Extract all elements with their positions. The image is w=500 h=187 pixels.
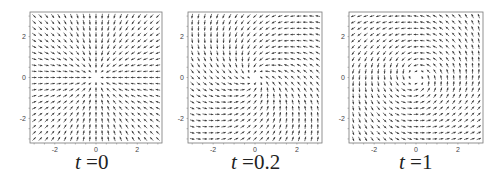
x-tick-label: -2 xyxy=(371,146,377,153)
y-tick-label: 0 xyxy=(341,74,345,81)
vector-field-plot: -202-202 xyxy=(0,0,165,150)
vector-field-plot: -202-202 xyxy=(158,0,323,150)
caption: t =0 xyxy=(75,150,108,175)
x-tick-label: 2 xyxy=(295,146,299,153)
x-tick-label: 2 xyxy=(135,146,139,153)
y-tick-label: 2 xyxy=(341,33,345,40)
y-tick-label: -2 xyxy=(20,115,26,122)
plot-frame xyxy=(188,12,322,143)
x-tick-label: -2 xyxy=(52,146,58,153)
caption: t =1 xyxy=(399,150,432,175)
y-tick-label: -2 xyxy=(339,115,345,122)
panel-t02: -202-202 t =0.2 xyxy=(158,0,323,187)
panel-t0: -202-202 t =0 xyxy=(0,0,165,187)
caption-value: =1 xyxy=(410,150,432,174)
x-tick-label: -2 xyxy=(210,146,216,153)
y-tick-label: 0 xyxy=(22,74,26,81)
y-tick-label: 2 xyxy=(22,33,26,40)
y-tick-label: 2 xyxy=(180,33,184,40)
caption-variable: t xyxy=(75,150,81,174)
plot-frame xyxy=(349,12,483,143)
panel-t1: -202-202 t =1 xyxy=(319,0,484,187)
caption-value: =0.2 xyxy=(242,150,280,174)
y-tick-label: -2 xyxy=(178,115,184,122)
vector-field-arrows xyxy=(351,14,481,141)
caption: t =0.2 xyxy=(231,150,280,175)
caption-variable: t xyxy=(231,150,237,174)
vector-field-arrows xyxy=(32,14,160,141)
y-tick-label: 0 xyxy=(180,74,184,81)
vector-field-plot: -202-202 xyxy=(319,0,484,150)
caption-value: =0 xyxy=(86,150,108,174)
plot-frame xyxy=(30,12,162,143)
vector-field-arrows xyxy=(190,14,320,141)
caption-variable: t xyxy=(399,150,405,174)
x-tick-label: 2 xyxy=(456,146,460,153)
